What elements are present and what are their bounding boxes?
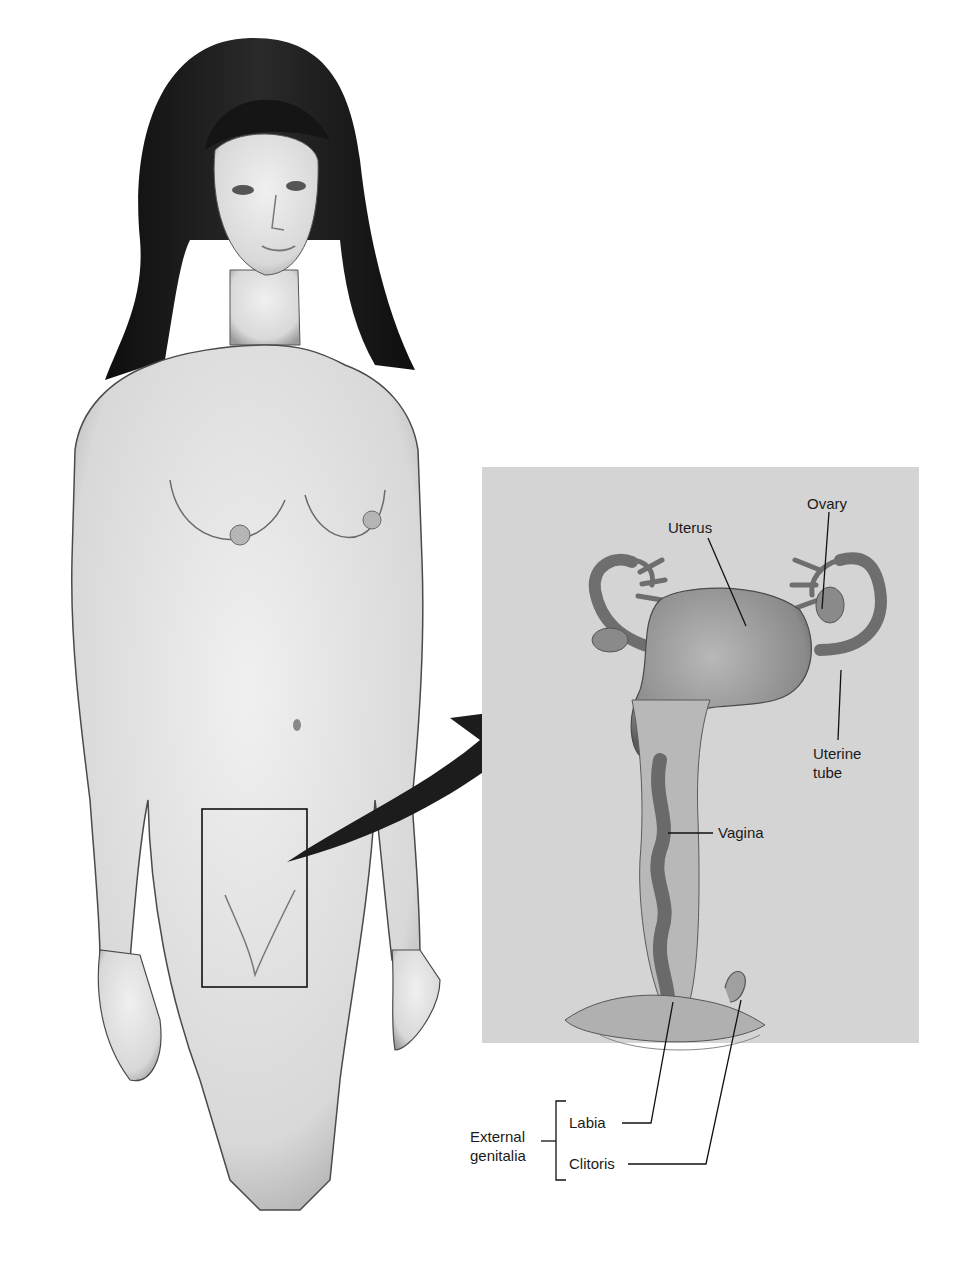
anatomy-figure: Uterus Ovary Uterine tube Vagina Externa…: [0, 0, 962, 1274]
label-labia: Labia: [569, 1114, 606, 1132]
figure-illustration: [0, 0, 962, 1274]
face: [205, 100, 330, 275]
label-uterus: Uterus: [668, 519, 712, 537]
label-clitoris: Clitoris: [569, 1155, 615, 1173]
body: [72, 270, 440, 1210]
label-ovary: Ovary: [807, 495, 847, 513]
label-uterine-tube-line2: tube: [813, 764, 842, 782]
label-external-line1: External: [470, 1128, 525, 1146]
label-external-line2: genitalia: [470, 1147, 526, 1165]
label-uterine-tube-line1: Uterine: [813, 745, 861, 763]
label-vagina: Vagina: [718, 824, 764, 842]
